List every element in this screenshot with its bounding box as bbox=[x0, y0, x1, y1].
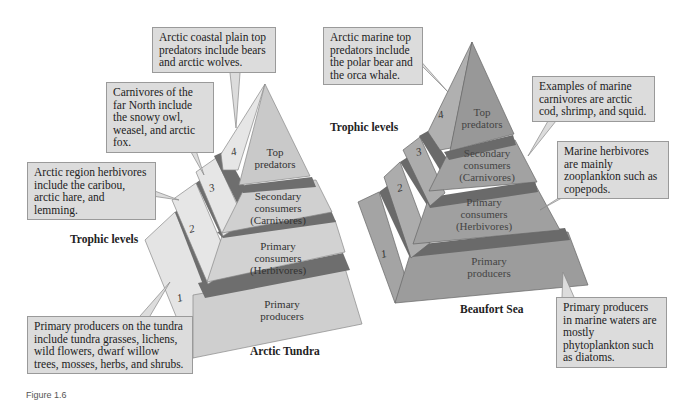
sea-level-1-name-2: producers bbox=[467, 267, 510, 279]
tundra-level-4-name-1: Top bbox=[267, 146, 284, 158]
tundra-leader-producers bbox=[140, 282, 170, 316]
tundra-level-3-name-3: (Carnivores) bbox=[250, 214, 306, 227]
tundra-callout-producers: Primary producers on the tundra include … bbox=[27, 316, 193, 374]
tundra-level-3-name-2: consumers bbox=[254, 202, 301, 214]
tundra-callout-carnivores: Carnivores of the far North include the … bbox=[106, 82, 214, 153]
sea-callout-top-predators: Arctic marine top predators include the … bbox=[323, 27, 423, 85]
tundra-trophic-levels-label: Trophic levels bbox=[70, 233, 138, 245]
tundra-callout-top-predators: Arctic coastal plain top predators inclu… bbox=[152, 27, 276, 73]
sea-callout-herbivores: Marine herbivores are mainly zooplankton… bbox=[557, 141, 669, 199]
tundra-level-2-name-1: Primary bbox=[260, 240, 296, 252]
sea-trophic-levels-label: Trophic levels bbox=[330, 121, 398, 133]
sea-level-2-name-1: Primary bbox=[466, 196, 502, 208]
sea-leader-carnivores bbox=[528, 121, 556, 156]
sea-level-2-name-2: consumers bbox=[460, 208, 507, 220]
tundra-level-1-name-2: producers bbox=[260, 310, 303, 322]
tundra-leader-top bbox=[230, 73, 240, 128]
sea-callout-producers: Primary producers in marine waters are m… bbox=[556, 297, 667, 368]
tundra-callout-herbivores: Arctic region herbivores include the car… bbox=[27, 162, 156, 220]
sea-level-2-name-3: (Herbivores) bbox=[456, 220, 513, 233]
tundra-level-2-name-2: consumers bbox=[254, 252, 301, 264]
sea-level-1-name-1: Primary bbox=[471, 255, 507, 267]
tundra-level-1-name-1: Primary bbox=[264, 298, 300, 310]
tundra-level-3-name-1: Secondary bbox=[255, 190, 302, 202]
tundra-leader-herbivores bbox=[152, 190, 179, 200]
sea-level-3-name-3: (Carnivores) bbox=[459, 171, 515, 184]
tundra-pyramid-title: Arctic Tundra bbox=[250, 345, 320, 357]
sea-level-4-name-1: Top bbox=[474, 106, 491, 118]
sea-level-4-name-2: predators bbox=[462, 118, 503, 130]
sea-pyramid-title: Beaufort Sea bbox=[460, 303, 524, 315]
tundra-level-4-name-2: predators bbox=[255, 158, 296, 170]
sea-level-3-name-2: consumers bbox=[463, 159, 510, 171]
sea-level-3-name-1: Secondary bbox=[464, 147, 511, 159]
tundra-level-2-name-3: (Herbivores) bbox=[250, 264, 307, 277]
figure-caption: Figure 1.6 bbox=[26, 390, 67, 400]
sea-callout-carnivores: Examples of marine carnivores are arctic… bbox=[532, 76, 655, 122]
